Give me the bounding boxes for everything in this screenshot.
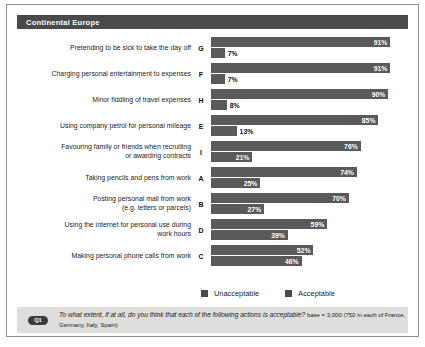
- legend-swatch-icon: [285, 290, 292, 297]
- row-bars: 91%7%: [211, 35, 408, 61]
- bar-value-label: 13%: [237, 128, 254, 135]
- bar-acceptable: 8%: [211, 100, 227, 110]
- bar-value-label: 52%: [297, 247, 314, 254]
- bar-unacceptable: 70%: [211, 193, 349, 203]
- row-code: F: [195, 61, 207, 87]
- bar-value-label: 90%: [372, 91, 389, 98]
- row-label-line: Using company petrol for personal mileag…: [60, 122, 191, 131]
- bar-acceptable: 25%: [211, 178, 260, 188]
- bar-value-label: 85%: [362, 117, 379, 124]
- bar-value-label: 91%: [374, 65, 391, 72]
- row-bars: 85%13%: [211, 113, 408, 139]
- row-bars: 52%46%: [211, 243, 408, 269]
- row-code: E: [195, 113, 207, 139]
- bar-unacceptable: 59%: [211, 219, 327, 229]
- row-label: Favouring family or friends when recruit…: [17, 139, 191, 165]
- chart-row: Using company petrol for personal mileag…: [17, 113, 408, 139]
- row-label-line: Charging personal entertainment to expen…: [52, 70, 191, 79]
- legend-item[interactable]: Unacceptable: [201, 289, 259, 298]
- bar-value-label: 91%: [374, 39, 391, 46]
- bar-unacceptable: 91%: [211, 37, 390, 47]
- row-bars: 70%27%: [211, 191, 408, 217]
- bar-value-label: 21%: [236, 154, 253, 161]
- bar-value-label: 7%: [225, 50, 238, 57]
- bar-value-label: 27%: [248, 206, 265, 213]
- row-bars: 76%21%: [211, 139, 408, 165]
- row-label: Using the internet for personal use duri…: [17, 217, 191, 243]
- row-code: A: [195, 165, 207, 191]
- row-label-line: Using the internet for personal use duri…: [65, 221, 191, 230]
- row-label: Making personal phone calls from work: [17, 243, 191, 269]
- row-code: I: [195, 139, 207, 165]
- row-code: D: [195, 217, 207, 243]
- chart-footnote: Q1 To what extent, if at all, do you thi…: [17, 307, 408, 333]
- bar-value-label: 74%: [340, 169, 357, 176]
- legend-label: Acceptable: [298, 289, 335, 298]
- chart-plot-area: Pretending to be sick to take the day of…: [17, 35, 408, 280]
- row-label-line: Posting personal mail from work: [93, 195, 191, 204]
- chart-row: Posting personal mail from work(e.g. let…: [17, 191, 408, 217]
- row-label-line: work hours: [157, 230, 191, 239]
- bar-value-label: 76%: [344, 143, 361, 150]
- row-code: B: [195, 191, 207, 217]
- bar-unacceptable: 91%: [211, 63, 390, 73]
- bar-unacceptable: 74%: [211, 167, 357, 177]
- chart-row: Pretending to be sick to take the day of…: [17, 35, 408, 61]
- question-label: To what extent, if at all, do you think …: [59, 311, 305, 318]
- bar-unacceptable: 90%: [211, 89, 388, 99]
- row-label-line: Pretending to be sick to take the day of…: [70, 44, 191, 53]
- bar-value-label: 59%: [311, 221, 328, 228]
- row-label: Using company petrol for personal mileag…: [17, 113, 191, 139]
- bar-value-label: 8%: [227, 102, 240, 109]
- chart-title: Continental Europe: [17, 18, 100, 27]
- question-text: To what extent, if at all, do you think …: [59, 310, 408, 331]
- bar-acceptable: 7%: [211, 48, 225, 58]
- bar-unacceptable: 52%: [211, 245, 313, 255]
- row-label: Taking pencils and pens from work: [17, 165, 191, 191]
- legend-swatch-icon: [201, 290, 208, 297]
- bar-acceptable: 7%: [211, 74, 225, 84]
- chart-row: Taking pencils and pens from workA74%25%: [17, 165, 408, 191]
- row-label-line: Taking pencils and pens from work: [85, 174, 191, 183]
- bar-value-label: 25%: [244, 180, 261, 187]
- row-label: Posting personal mail from work(e.g. let…: [17, 191, 191, 217]
- row-label-line: (e.g. letters or parcels): [122, 204, 191, 213]
- chart-row: Charging personal entertainment to expen…: [17, 61, 408, 87]
- bar-unacceptable: 76%: [211, 141, 361, 151]
- row-bars: 90%8%: [211, 87, 408, 113]
- legend-label: Unacceptable: [214, 289, 259, 298]
- bar-value-label: 46%: [285, 258, 302, 265]
- bar-acceptable: 27%: [211, 204, 264, 214]
- bar-unacceptable: 85%: [211, 115, 378, 125]
- row-label: Charging personal entertainment to expen…: [17, 61, 191, 87]
- row-code: C: [195, 243, 207, 269]
- bar-acceptable: 13%: [211, 126, 237, 136]
- question-badge: Q1: [28, 316, 48, 325]
- row-code: G: [195, 35, 207, 61]
- row-label-line: Favouring family or friends when recruit…: [61, 143, 191, 152]
- bar-acceptable: 39%: [211, 230, 288, 240]
- bar-acceptable: 21%: [211, 152, 252, 162]
- bar-acceptable: 46%: [211, 256, 302, 266]
- row-bars: 91%7%: [211, 61, 408, 87]
- row-label: Minor fiddling of travel expenses: [17, 87, 191, 113]
- chart-row: Favouring family or friends when recruit…: [17, 139, 408, 165]
- legend-item[interactable]: Acceptable: [285, 289, 335, 298]
- chart-row: Using the internet for personal use duri…: [17, 217, 408, 243]
- row-bars: 74%25%: [211, 165, 408, 191]
- bar-value-label: 7%: [225, 76, 238, 83]
- row-code: H: [195, 87, 207, 113]
- row-label-line: Minor fiddling of travel expenses: [92, 96, 191, 105]
- bar-value-label: 39%: [271, 232, 288, 239]
- row-label: Pretending to be sick to take the day of…: [17, 35, 191, 61]
- bar-value-label: 70%: [332, 195, 349, 202]
- chart-legend: UnacceptableAcceptable: [201, 287, 411, 299]
- row-label-line: Making personal phone calls from work: [72, 252, 192, 261]
- chart-row: Minor fiddling of travel expensesH90%8%: [17, 87, 408, 113]
- chart-card: Continental Europe Pretending to be sick…: [6, 4, 419, 337]
- chart-row: Making personal phone calls from workC52…: [17, 243, 408, 269]
- row-label-line: or awarding contracts: [125, 152, 191, 161]
- chart-header-bar: Continental Europe: [17, 15, 408, 29]
- row-bars: 59%39%: [211, 217, 408, 243]
